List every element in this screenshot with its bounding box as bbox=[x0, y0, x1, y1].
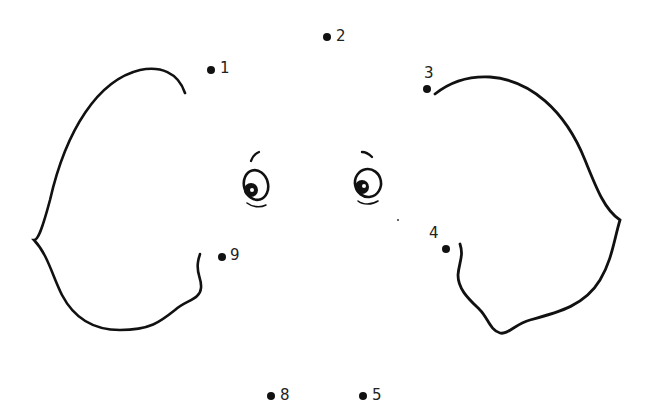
right-ear-outline bbox=[435, 77, 620, 333]
dot-1[interactable] bbox=[207, 66, 215, 74]
dot-label-8: 8 bbox=[280, 388, 290, 403]
left-eye bbox=[241, 152, 272, 207]
left-ear-outline bbox=[34, 69, 201, 330]
dot-3[interactable] bbox=[423, 85, 431, 93]
dot-label-5: 5 bbox=[372, 388, 382, 403]
right-eyebrow-icon bbox=[362, 152, 372, 157]
right-eye bbox=[353, 152, 383, 204]
left-eye-highlight-icon bbox=[250, 188, 254, 192]
dot-label-3: 3 bbox=[424, 66, 434, 81]
right-eye-highlight-icon bbox=[362, 184, 366, 188]
right-eye-lid-icon bbox=[358, 201, 378, 204]
dot-label-1: 1 bbox=[220, 61, 230, 76]
dot-9[interactable] bbox=[218, 253, 226, 261]
left-eye-lid-icon bbox=[247, 203, 266, 207]
speck bbox=[397, 219, 399, 221]
dot-label-4: 4 bbox=[429, 226, 439, 241]
dot-label-2: 2 bbox=[336, 29, 346, 44]
dot-to-dot-drawing bbox=[0, 0, 650, 418]
left-eye-outline-icon bbox=[241, 167, 272, 202]
dot-5[interactable] bbox=[359, 392, 367, 400]
right-pupil-icon bbox=[355, 180, 369, 194]
dot-2[interactable] bbox=[323, 33, 331, 41]
dot-8[interactable] bbox=[267, 392, 275, 400]
left-eyebrow-icon bbox=[251, 152, 259, 161]
dot-label-9: 9 bbox=[230, 248, 240, 263]
dot-4[interactable] bbox=[442, 245, 450, 253]
